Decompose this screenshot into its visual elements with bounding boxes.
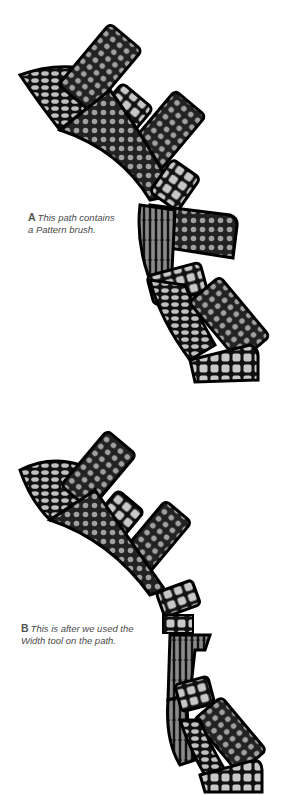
figure-panel-b: BThis is after we used the Width tool on…	[0, 420, 282, 795]
pattern-brush-path-illustration	[0, 0, 282, 395]
figure-panel-a: AThis path contains a Pattern brush.	[0, 0, 282, 395]
caption-a-line1: This path contains	[38, 212, 115, 223]
width-tool-path-illustration	[0, 420, 282, 795]
caption-b-line2: Width tool on the path.	[21, 635, 116, 646]
caption-letter-b: B	[21, 622, 29, 634]
caption-letter-a: A	[28, 211, 36, 223]
caption-a: AThis path contains a Pattern brush.	[28, 211, 138, 236]
caption-b-line1: This is after we used the	[31, 623, 134, 634]
caption-a-line2: a Pattern brush.	[28, 224, 96, 235]
caption-b: BThis is after we used the Width tool on…	[21, 622, 156, 647]
